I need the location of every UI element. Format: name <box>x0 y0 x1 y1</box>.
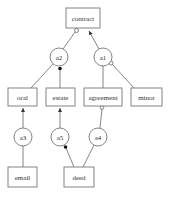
edge-a1-contract <box>89 31 99 49</box>
argument-label: a1 <box>100 54 107 62</box>
statement-label: minor <box>138 94 155 102</box>
edge-a2-contract <box>63 32 75 49</box>
statement-label: email <box>15 174 31 182</box>
argument-label: a4 <box>95 134 102 142</box>
edge-deed-a5 <box>66 148 74 167</box>
argument-label: a5 <box>57 134 64 142</box>
edge-deed-a4 <box>83 145 94 167</box>
statement-deed: deed <box>64 167 94 187</box>
statement-email: email <box>8 167 37 187</box>
argument-a2: a2 <box>50 48 68 66</box>
edge-oral-a2 <box>31 64 53 88</box>
statement-estate: estate <box>46 88 75 106</box>
edge-minor-a1 <box>112 64 134 88</box>
argument-a5: a5 <box>51 128 69 146</box>
statement-contract: contract <box>66 8 100 28</box>
argument-diagram: contract oral estate agreement minor ema… <box>0 0 169 198</box>
argument-a3: a3 <box>14 128 32 146</box>
edge-a4-agreement <box>100 109 102 128</box>
argument-label: a2 <box>56 54 63 62</box>
argument-a1: a1 <box>94 48 112 66</box>
filled-circle-head-icon <box>64 145 68 149</box>
statement-label: oral <box>17 94 28 102</box>
filled-circle-head-icon <box>58 67 62 71</box>
statement-label: estate <box>53 94 69 102</box>
statement-label: contract <box>72 15 95 23</box>
statement-oral: oral <box>8 88 37 106</box>
statement-minor: minor <box>131 88 162 106</box>
open-circle-head-icon <box>75 29 79 33</box>
argument-label: a3 <box>20 134 27 142</box>
statement-label: deed <box>72 174 86 182</box>
statement-label: agreement <box>88 94 117 102</box>
argument-a4: a4 <box>89 128 107 146</box>
statement-agreement: agreement <box>84 88 122 106</box>
